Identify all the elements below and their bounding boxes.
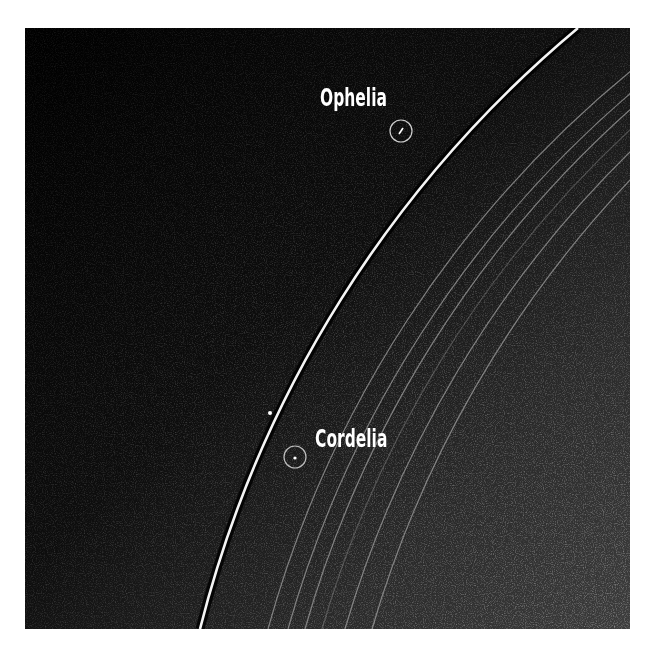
ring-scene bbox=[25, 28, 630, 629]
label-cordelia: Cordelia bbox=[315, 426, 387, 451]
ring-image-frame: Ophelia Cordelia bbox=[25, 28, 630, 629]
ring-bright-spot bbox=[268, 411, 272, 415]
label-ophelia: Ophelia bbox=[320, 85, 387, 110]
